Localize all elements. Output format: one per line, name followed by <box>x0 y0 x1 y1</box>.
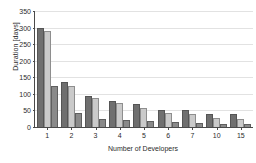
bar <box>116 103 123 127</box>
bar <box>182 110 189 127</box>
bar <box>230 114 237 127</box>
bar <box>99 119 106 127</box>
x-tick-mark <box>241 127 242 130</box>
y-tick-label: 150 <box>19 74 35 81</box>
bar <box>75 113 82 127</box>
bar-group: 7 <box>180 11 204 127</box>
bar <box>123 120 130 127</box>
y-tick-label: 300 <box>19 24 35 31</box>
x-tick-label: 7 <box>190 132 194 139</box>
y-axis-title: Duration [days] <box>12 0 19 95</box>
bar <box>213 118 220 127</box>
bar <box>147 121 154 127</box>
bar-group: 10 <box>205 11 229 127</box>
bar <box>165 113 172 127</box>
bar <box>220 124 227 127</box>
bar-groups: 12345671015 <box>35 11 253 127</box>
bar <box>92 98 99 127</box>
y-tick-label: 200 <box>19 57 35 64</box>
y-tick-label: 100 <box>19 90 35 97</box>
bar-group: 6 <box>156 11 180 127</box>
bar <box>237 119 244 127</box>
bar <box>37 28 44 127</box>
x-tick-mark <box>47 127 48 130</box>
bar <box>196 123 203 127</box>
bar <box>140 108 147 127</box>
x-tick-label: 10 <box>213 132 221 139</box>
bar <box>172 122 179 127</box>
x-tick-label: 5 <box>142 132 146 139</box>
bar <box>133 104 140 127</box>
bar-group: 15 <box>229 11 253 127</box>
bar <box>51 86 58 127</box>
bar-group: 3 <box>83 11 107 127</box>
x-tick-label: 3 <box>94 132 98 139</box>
x-axis-title: Number of Developers <box>34 145 252 152</box>
x-tick-label: 2 <box>69 132 73 139</box>
bar <box>109 101 116 128</box>
x-tick-mark <box>144 127 145 130</box>
x-tick-label: 6 <box>166 132 170 139</box>
bar <box>189 114 196 127</box>
x-tick-label: 15 <box>237 132 245 139</box>
bar-group: 1 <box>35 11 59 127</box>
plot-area: 050100150200250300350 12345671015 <box>34 11 253 128</box>
bar <box>61 82 68 127</box>
y-tick-label: 0 <box>27 124 35 131</box>
x-tick-mark <box>96 127 97 130</box>
bar <box>244 124 251 127</box>
bar <box>158 110 165 127</box>
y-tick-label: 250 <box>19 41 35 48</box>
bar-group: 4 <box>108 11 132 127</box>
x-tick-label: 4 <box>118 132 122 139</box>
x-tick-label: 1 <box>45 132 49 139</box>
x-tick-mark <box>120 127 121 130</box>
bar <box>44 31 51 127</box>
bar-group: 2 <box>59 11 83 127</box>
bar-chart: Duration [days] 050100150200250300350 12… <box>0 0 256 163</box>
bar <box>206 114 213 127</box>
bar <box>85 96 92 127</box>
y-tick-label: 350 <box>19 8 35 15</box>
x-tick-mark <box>168 127 169 130</box>
y-tick-label: 50 <box>23 107 35 114</box>
x-tick-mark <box>71 127 72 130</box>
x-tick-mark <box>217 127 218 130</box>
x-tick-mark <box>192 127 193 130</box>
bar <box>68 86 75 127</box>
bar-group: 5 <box>132 11 156 127</box>
